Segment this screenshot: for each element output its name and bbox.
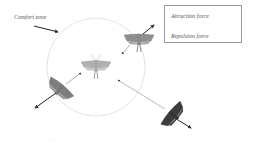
repulsion-arrow bbox=[178, 120, 191, 128]
legend-box: Attraction force Repulsion force bbox=[164, 5, 242, 43]
repulsion-arrow bbox=[35, 93, 56, 108]
comfort-zone-pointer bbox=[34, 26, 58, 32]
comfort-zone-label: Comfort zone bbox=[14, 14, 47, 20]
moth-icon-lower-right bbox=[160, 100, 188, 130]
attraction-arrow bbox=[122, 45, 130, 54]
repulsion-arrow bbox=[143, 25, 154, 34]
footer-mark: . ‘ . bbox=[51, 137, 58, 142]
moth-icon-upper-right bbox=[124, 34, 154, 52]
legend-attraction-label: Attraction force bbox=[171, 13, 209, 19]
moth-icon-center bbox=[81, 55, 111, 79]
legend-repulsion-label: Repulsion force bbox=[171, 33, 209, 39]
attraction-arrow bbox=[66, 73, 81, 84]
